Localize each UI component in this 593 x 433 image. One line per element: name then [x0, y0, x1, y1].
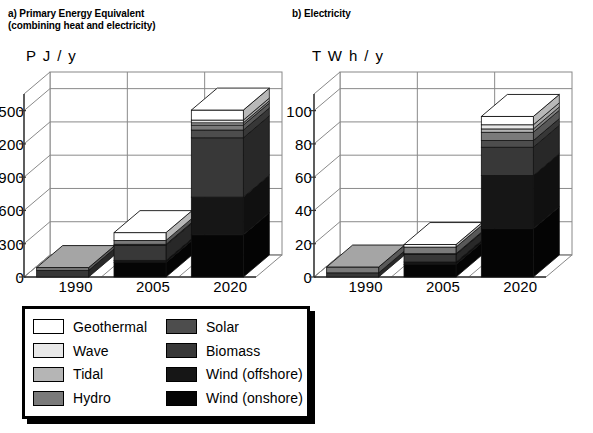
- bar-segment-hydro: [191, 125, 243, 130]
- legend-item-wind_offshore: Wind (offshore): [166, 363, 303, 387]
- bar-segment-biomass: [404, 255, 456, 262]
- bar-segment-solar: [481, 141, 533, 148]
- bar-segment-biomass: [327, 273, 379, 277]
- legend-swatch-wind_onshore: [166, 391, 197, 406]
- chart-b-canvas: [314, 72, 578, 283]
- bar-segment-wave: [191, 120, 243, 123]
- bar-segment-biomass: [114, 245, 166, 260]
- panel-a-title: a) Primary Energy Equivalent (combining …: [8, 8, 155, 31]
- legend-label-geothermal: Geothermal: [73, 319, 147, 335]
- legend-item-tidal: Tidal: [33, 363, 162, 387]
- legend-label-hydro: Hydro: [73, 390, 111, 406]
- legend-swatch-tidal: [33, 367, 64, 382]
- panel-a-y-tick-labels: 030060090012001500: [0, 72, 24, 277]
- x-tick-label: 2005: [136, 278, 170, 295]
- legend-swatch-wave: [33, 343, 64, 358]
- x-tick-label: 2020: [503, 278, 537, 295]
- legend-item-solar: Solar: [166, 315, 303, 339]
- legend-swatch-wind_offshore: [166, 367, 197, 382]
- bar-segment-biomass: [191, 138, 243, 197]
- legend-label-biomass: Biomass: [206, 343, 260, 359]
- legend-item-geothermal: Geothermal: [33, 315, 162, 339]
- bar-segment-hydro: [481, 132, 533, 140]
- panel-b-y-tick-labels: 020406080100: [256, 72, 312, 277]
- bar-segment-wave: [481, 125, 533, 129]
- panel-a-y-axis-unit: P J / y: [26, 47, 77, 64]
- legend-item-hydro: Hydro: [33, 386, 162, 410]
- bar-segment-wind_onshore: [114, 263, 166, 277]
- bar-segment-biomass: [481, 147, 533, 175]
- legend-label-wave: Wave: [73, 343, 109, 359]
- bar-segment-wind_offshore: [191, 197, 243, 235]
- legend-item-biomass: Biomass: [166, 339, 303, 363]
- panel-b-plot-area: [314, 72, 572, 277]
- legend-swatch-geothermal: [33, 319, 64, 334]
- bar-segment-geothermal: [191, 110, 243, 120]
- bar-segment-geothermal: [481, 116, 533, 124]
- panel-b-y-axis-unit: T W h / y: [312, 47, 384, 64]
- bar-segment-hydro: [114, 240, 166, 244]
- x-tick-label: 1990: [349, 278, 383, 295]
- bar-segment-solar: [191, 130, 243, 138]
- bar-segment-hydro: [404, 247, 456, 254]
- legend-item-wave: Wave: [33, 339, 162, 363]
- chart-panel-electricity: b) Electricity T W h / y 020406080100 19…: [296, 0, 593, 300]
- legend-swatch-hydro: [33, 391, 64, 406]
- x-tick-label: 2005: [426, 278, 460, 295]
- bar-segment-tidal: [481, 129, 533, 132]
- legend-item-wind_onshore: Wind (onshore): [166, 386, 303, 410]
- chart-panel-primary-energy: a) Primary Energy Equivalent (combining …: [0, 0, 296, 300]
- bar-segment-biomass: [37, 270, 89, 277]
- chart-a-canvas: [24, 72, 288, 283]
- bar-2020: [481, 94, 559, 277]
- bar-segment-geothermal: [114, 233, 166, 241]
- chart-legend: GeothermalSolarWaveBiomassTidalWind (off…: [22, 306, 310, 419]
- y-tick-label: 100: [286, 102, 312, 119]
- panel-a-plot-area: [24, 72, 282, 277]
- panel-b-x-tick-labels: 199020052020: [314, 278, 572, 300]
- legend-label-solar: Solar: [206, 319, 239, 335]
- bar-segment-wind_offshore: [481, 176, 533, 229]
- x-tick-label: 2020: [213, 278, 247, 295]
- panel-b-title: b) Electricity: [292, 8, 351, 20]
- legend-label-wind_onshore: Wind (onshore): [206, 390, 303, 406]
- bar-segment-hydro: [327, 267, 379, 273]
- legend-swatch-solar: [166, 319, 197, 334]
- bar-segment-wind_onshore: [191, 235, 243, 277]
- panel-a-x-tick-labels: 199020052020: [24, 278, 282, 300]
- legend-label-tidal: Tidal: [73, 366, 103, 382]
- x-tick-label: 1990: [59, 278, 93, 295]
- legend-swatch-biomass: [166, 343, 197, 358]
- bar-segment-wind_onshore: [481, 229, 533, 277]
- legend-label-wind_offshore: Wind (offshore): [206, 366, 303, 382]
- bar-segment-wind_onshore: [404, 265, 456, 277]
